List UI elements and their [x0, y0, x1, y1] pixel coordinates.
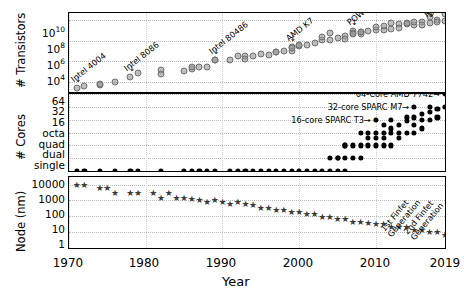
ytick-node-4: 1	[10, 238, 65, 250]
panel-transistors: Intel 4004↓Intel 8086↓Intel 80486↓AMD K7…	[68, 12, 446, 93]
data-point	[112, 79, 119, 86]
data-point	[389, 117, 394, 122]
data-point	[243, 168, 248, 172]
data-point	[442, 18, 447, 25]
data-point	[388, 20, 395, 27]
data-point	[288, 44, 295, 51]
annotation-arrow: ↓	[128, 65, 135, 73]
xlabel: Year	[222, 274, 250, 289]
data-point	[250, 52, 257, 59]
data-point	[419, 117, 424, 122]
data-point	[135, 168, 140, 172]
data-point	[412, 130, 417, 135]
gridline-v	[146, 177, 147, 248]
panel-node: ★★★★★★★★★★★★★★★★★★★★★★★★★★★★★★★★★★★★★★★★…	[68, 176, 446, 249]
data-point	[357, 28, 364, 35]
data-point	[373, 117, 378, 122]
data-point	[427, 117, 432, 122]
data-point	[389, 143, 394, 148]
data-point	[412, 104, 417, 109]
data-point	[128, 168, 133, 172]
data-point	[242, 56, 249, 63]
data-point: ★	[134, 188, 142, 197]
data-point	[274, 168, 279, 172]
data-point	[196, 63, 203, 70]
data-point	[281, 168, 286, 172]
data-point	[373, 130, 378, 135]
data-point	[257, 50, 264, 57]
annotation-cores: 16-core SPARC T3→	[69, 115, 371, 125]
data-point	[350, 143, 355, 148]
data-point	[158, 168, 163, 172]
data-point	[304, 168, 309, 172]
data-point: ★	[441, 230, 446, 239]
data-point	[158, 71, 165, 78]
ytick-node-1: 1000	[10, 193, 65, 205]
data-point	[426, 20, 433, 27]
data-point	[319, 34, 326, 41]
data-point	[211, 57, 218, 64]
data-point	[366, 130, 371, 135]
data-point	[335, 156, 340, 161]
data-point	[74, 168, 79, 172]
data-point	[81, 83, 88, 90]
annotation-arrow: ↓	[75, 76, 82, 84]
data-point	[327, 156, 332, 161]
data-point	[396, 130, 401, 135]
data-point	[326, 29, 333, 36]
gridline-h	[69, 158, 445, 159]
data-point	[358, 156, 363, 161]
data-point	[427, 110, 432, 115]
annotation-arrow: ↓	[351, 19, 358, 27]
data-point	[396, 122, 401, 127]
gridline-v	[376, 177, 377, 248]
ytick-cores-6: single	[18, 159, 65, 171]
data-point	[182, 168, 187, 172]
data-point	[234, 53, 241, 60]
xtick-5: 2019	[413, 256, 464, 270]
data-point	[273, 48, 280, 55]
gridline-h	[69, 248, 445, 249]
data-point	[289, 168, 294, 172]
ytick-transistors-3: 104	[24, 73, 65, 87]
data-point	[411, 18, 418, 25]
annotation-arrow: ↓	[213, 48, 220, 56]
data-point	[366, 135, 371, 140]
data-point	[418, 22, 425, 29]
data-point	[212, 168, 217, 172]
data-point	[419, 111, 424, 116]
annotation-arrow: ↓	[290, 35, 297, 43]
data-point	[381, 135, 386, 140]
gridline-v	[222, 13, 223, 92]
data-point	[365, 27, 372, 34]
data-point	[434, 18, 441, 25]
data-point	[349, 30, 356, 37]
gridline-v	[222, 177, 223, 248]
ytick-transistors-0: 1010	[24, 25, 65, 39]
annotation-cores: 64-Core AMD 7742→	[69, 93, 440, 99]
data-point	[419, 126, 424, 131]
data-point	[366, 143, 371, 148]
data-point	[258, 168, 263, 172]
gridline-h	[69, 41, 445, 42]
data-point	[396, 135, 401, 140]
xtick-2: 1990	[189, 256, 253, 270]
data-point	[442, 93, 446, 97]
data-point	[327, 168, 332, 172]
data-point	[343, 168, 348, 172]
xtick-1: 1980	[112, 256, 176, 270]
data-point	[181, 68, 188, 75]
gridline-h	[69, 185, 445, 186]
data-point	[427, 104, 432, 109]
data-point	[312, 168, 317, 172]
data-point	[395, 24, 402, 31]
data-point	[280, 48, 287, 55]
data-point	[303, 41, 310, 48]
data-point	[373, 135, 378, 140]
data-point	[373, 143, 378, 148]
data-point	[334, 35, 341, 42]
data-point	[251, 168, 256, 172]
data-point	[228, 168, 233, 172]
xtick-0: 1970	[36, 256, 100, 270]
data-point	[266, 168, 271, 172]
